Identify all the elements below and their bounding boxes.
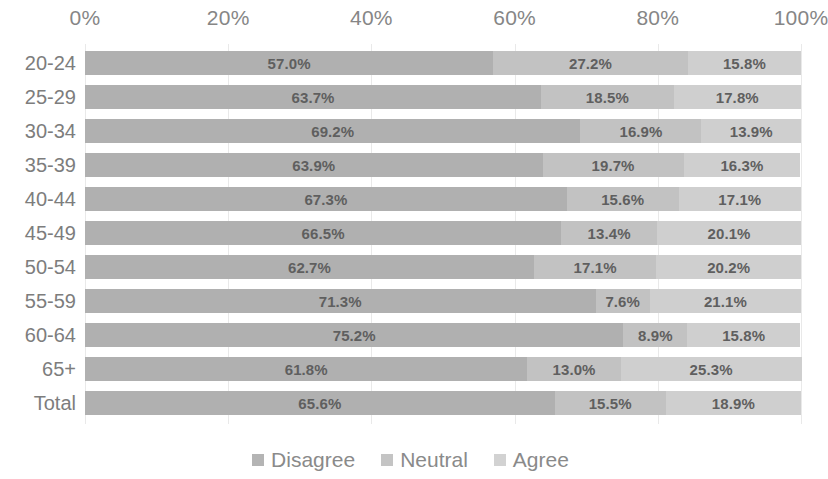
bar-segment-neutral[interactable]: 18.5%	[541, 85, 673, 109]
bar-segment-disagree[interactable]: 57.0%	[85, 51, 493, 75]
bar-segment-value-label: 18.9%	[712, 395, 755, 412]
bar-row: 35-3963.9%19.7%16.3%	[0, 148, 821, 182]
bar-segment-disagree[interactable]: 62.7%	[85, 255, 534, 279]
bar-segment-value-label: 27.2%	[569, 55, 612, 72]
x-axis-tick-label: 100%	[774, 6, 828, 30]
legend-item-agree[interactable]: Agree	[494, 448, 569, 472]
bar-segment-agree[interactable]: 17.1%	[679, 187, 801, 211]
bar-segment-agree[interactable]: 15.8%	[687, 323, 800, 347]
legend-swatch-icon	[381, 454, 393, 466]
bar-segment-value-label: 20.1%	[708, 225, 751, 242]
bar-segment-value-label: 69.2%	[311, 123, 354, 140]
bar-segment-value-label: 15.8%	[723, 55, 766, 72]
bar-segment-value-label: 15.8%	[722, 327, 765, 344]
bar-segment-value-label: 63.7%	[292, 89, 335, 106]
bar-segment-neutral[interactable]: 19.7%	[543, 153, 684, 177]
bar-segment-value-label: 15.6%	[601, 191, 644, 208]
bar-row: 25-2963.7%18.5%17.8%	[0, 80, 821, 114]
bar-segment-disagree[interactable]: 67.3%	[85, 187, 567, 211]
bar-segment-value-label: 19.7%	[592, 157, 635, 174]
legend-item-neutral[interactable]: Neutral	[381, 448, 468, 472]
bar-track: 66.5%13.4%20.1%	[85, 221, 801, 245]
bar-row: 20-2457.0%27.2%15.8%	[0, 46, 821, 80]
bar-segment-neutral[interactable]: 8.9%	[623, 323, 687, 347]
category-label: 50-54	[0, 250, 76, 284]
bar-row: 30-3469.2%16.9%13.9%	[0, 114, 821, 148]
bar-segment-agree[interactable]: 16.3%	[684, 153, 801, 177]
x-axis-tick-label: 60%	[493, 6, 536, 30]
category-label: 40-44	[0, 182, 76, 216]
bar-row: 55-5971.3%7.6%21.1%	[0, 284, 821, 318]
bar-segment-value-label: 13.4%	[588, 225, 631, 242]
bar-segment-value-label: 13.0%	[553, 361, 596, 378]
legend-label: Disagree	[271, 448, 355, 472]
bar-segment-agree[interactable]: 18.9%	[666, 391, 801, 415]
bar-segment-disagree[interactable]: 71.3%	[85, 289, 596, 313]
bar-track: 62.7%17.1%20.2%	[85, 255, 801, 279]
bar-segment-value-label: 18.5%	[586, 89, 629, 106]
category-label: 45-49	[0, 216, 76, 250]
bar-row: 45-4966.5%13.4%20.1%	[0, 216, 821, 250]
bar-track: 67.3%15.6%17.1%	[85, 187, 801, 211]
bar-segment-value-label: 8.9%	[638, 327, 673, 344]
bar-segment-agree[interactable]: 15.8%	[688, 51, 801, 75]
legend-label: Neutral	[400, 448, 468, 472]
category-label: 55-59	[0, 284, 76, 318]
bar-segment-disagree[interactable]: 63.7%	[85, 85, 541, 109]
bar-segment-value-label: 71.3%	[319, 293, 362, 310]
bar-segment-value-label: 16.3%	[720, 157, 763, 174]
legend-label: Agree	[513, 448, 569, 472]
category-label: 60-64	[0, 318, 76, 352]
bar-segment-disagree[interactable]: 65.6%	[85, 391, 555, 415]
bar-segment-neutral[interactable]: 15.5%	[555, 391, 666, 415]
bar-row: Total65.6%15.5%18.9%	[0, 386, 821, 420]
bar-segment-value-label: 62.7%	[288, 259, 331, 276]
x-axis-tick-label: 80%	[636, 6, 679, 30]
bar-segment-agree[interactable]: 25.3%	[621, 357, 802, 381]
bar-segment-neutral[interactable]: 13.0%	[527, 357, 620, 381]
bar-segment-disagree[interactable]: 75.2%	[85, 323, 623, 347]
bar-row: 50-5462.7%17.1%20.2%	[0, 250, 821, 284]
bar-segment-value-label: 13.9%	[730, 123, 773, 140]
bar-segment-agree[interactable]: 20.1%	[657, 221, 801, 245]
legend-item-disagree[interactable]: Disagree	[252, 448, 355, 472]
bar-track: 61.8%13.0%25.3%	[85, 357, 801, 381]
category-label: 65+	[0, 352, 76, 386]
plot-area: 20-2457.0%27.2%15.8%25-2963.7%18.5%17.8%…	[0, 44, 821, 424]
bar-row: 65+61.8%13.0%25.3%	[0, 352, 821, 386]
bar-track: 65.6%15.5%18.9%	[85, 391, 801, 415]
bar-segment-agree[interactable]: 13.9%	[701, 119, 801, 143]
bar-segment-value-label: 66.5%	[302, 225, 345, 242]
bar-segment-agree[interactable]: 17.8%	[674, 85, 801, 109]
bar-segment-value-label: 17.8%	[716, 89, 759, 106]
bar-segment-neutral[interactable]: 16.9%	[580, 119, 701, 143]
bar-segment-agree[interactable]: 20.2%	[656, 255, 801, 279]
bar-segment-neutral[interactable]: 15.6%	[567, 187, 679, 211]
bar-row: 60-6475.2%8.9%15.8%	[0, 318, 821, 352]
bar-segment-disagree[interactable]: 61.8%	[85, 357, 527, 381]
bar-segment-neutral[interactable]: 17.1%	[534, 255, 656, 279]
bar-segment-disagree[interactable]: 69.2%	[85, 119, 580, 143]
chart-legend: DisagreeNeutralAgree	[0, 443, 821, 477]
bar-segment-value-label: 65.6%	[298, 395, 341, 412]
category-label: 30-34	[0, 114, 76, 148]
legend-swatch-icon	[494, 454, 506, 466]
bar-segment-neutral[interactable]: 7.6%	[596, 289, 650, 313]
bar-segment-value-label: 67.3%	[304, 191, 347, 208]
bar-track: 57.0%27.2%15.8%	[85, 51, 801, 75]
bar-segment-value-label: 7.6%	[605, 293, 640, 310]
bar-segment-value-label: 20.2%	[707, 259, 750, 276]
bar-segment-value-label: 63.9%	[292, 157, 335, 174]
x-axis: 0%20%40%60%80%100%	[0, 6, 821, 40]
bar-segment-value-label: 15.5%	[589, 395, 632, 412]
bar-segment-disagree[interactable]: 63.9%	[85, 153, 543, 177]
bar-segment-neutral[interactable]: 13.4%	[561, 221, 657, 245]
bar-segment-value-label: 21.1%	[704, 293, 747, 310]
x-axis-tick-label: 0%	[70, 6, 101, 30]
legend-swatch-icon	[252, 454, 264, 466]
bar-row: 40-4467.3%15.6%17.1%	[0, 182, 821, 216]
bar-segment-disagree[interactable]: 66.5%	[85, 221, 561, 245]
bar-segment-agree[interactable]: 21.1%	[650, 289, 801, 313]
bar-segment-neutral[interactable]: 27.2%	[493, 51, 688, 75]
